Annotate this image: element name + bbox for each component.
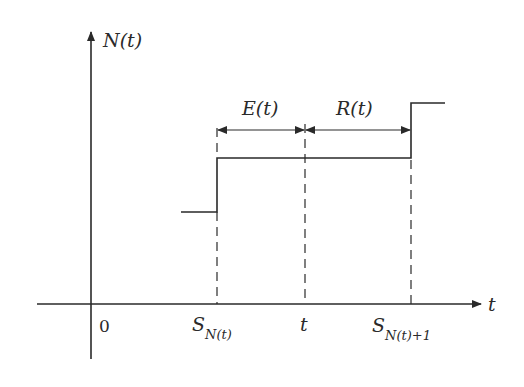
x-axis-label: t [488, 293, 496, 315]
y-axis-label: N(t) [102, 29, 142, 51]
step-function [181, 103, 445, 212]
svg-text:N(t): N(t) [204, 327, 232, 342]
tick-label-s-nt: S N(t) [192, 313, 232, 342]
interval-e-label: E(t) [241, 97, 278, 119]
tick-label-s-nt1: S N(t)+1 [372, 314, 431, 343]
svg-text:S: S [192, 313, 205, 335]
svg-text:S: S [372, 314, 385, 336]
tick-label-t: t [300, 313, 308, 335]
origin-label: 0 [99, 316, 110, 336]
interval-r-label: R(t) [335, 97, 373, 119]
renewal-process-diagram: N(t) t 0 E(t) R(t) S N(t) t S N(t)+1 [0, 0, 524, 387]
svg-text:N(t)+1: N(t)+1 [384, 328, 431, 343]
